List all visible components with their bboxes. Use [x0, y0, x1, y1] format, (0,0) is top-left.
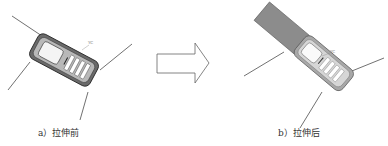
caption-before: a）拉伸前 — [38, 126, 79, 139]
arrow-right-icon — [140, 0, 240, 146]
panel-after-stretch: YC b）拉伸后 — [230, 0, 388, 146]
panel-before-stretch: YC a）拉伸前 — [0, 0, 140, 146]
yc-label-after: YC — [329, 49, 335, 54]
transition-arrow — [140, 0, 240, 146]
yc-label-before: YC — [87, 40, 93, 45]
caption-after: b）拉伸后 — [278, 126, 320, 139]
phone-before-illustration: YC — [0, 0, 140, 146]
phone-after-illustration: YC — [230, 0, 388, 146]
